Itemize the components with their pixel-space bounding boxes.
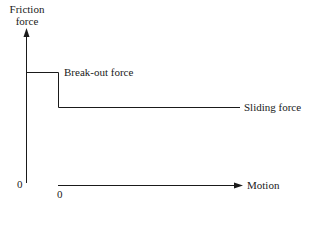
sliding-force-label: Sliding force xyxy=(244,101,301,113)
motion-label: Motion xyxy=(247,179,279,191)
y-origin-label: 0 xyxy=(17,178,23,190)
x-axis-arrow-icon xyxy=(234,183,243,189)
y-axis-arrow-icon xyxy=(24,28,30,37)
breakout-force-label: Break-out force xyxy=(64,66,133,78)
x-origin-label: 0 xyxy=(57,188,63,200)
